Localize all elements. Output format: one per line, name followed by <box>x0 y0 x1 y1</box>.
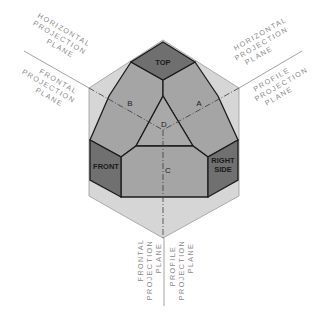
face-label-c: C <box>165 166 171 175</box>
label-bottom-profile: PROFILE PROJECTION PLANE <box>168 240 195 300</box>
svg-text:PLANE: PLANE <box>186 243 195 274</box>
svg-text:PROJECTION: PROJECTION <box>145 240 154 300</box>
projection-diagram: TOP FRONT RIGHT SIDE A B C D HORIZONTAL … <box>0 0 327 319</box>
face-label-d: D <box>161 120 167 129</box>
label-upper-left-horizontal: HORIZONTAL PROJECTION PLANE <box>27 11 93 65</box>
face-label-front: FRONT <box>93 162 119 171</box>
label-upper-right-horizontal: HORIZONTAL PROJECTION PLANE <box>228 15 297 70</box>
face-label-right-1: RIGHT <box>211 156 235 165</box>
svg-text:PLANE: PLANE <box>154 243 163 274</box>
svg-text:PROFILE: PROFILE <box>168 246 177 287</box>
face-label-right-2: SIDE <box>214 165 232 174</box>
face-label-top: TOP <box>155 58 170 67</box>
face-label-b: B <box>127 99 132 108</box>
face-label-a: A <box>196 99 202 108</box>
label-upper-right-profile: PROFILE PROJECTION PLANE <box>248 57 314 111</box>
label-bottom-frontal: FRONTAL PROJECTION PLANE <box>136 239 163 301</box>
svg-text:PROJECTION: PROJECTION <box>177 240 186 300</box>
label-upper-left-frontal: FRONTAL PROJECTION PLANE <box>16 59 82 113</box>
svg-text:FRONTAL: FRONTAL <box>136 239 145 282</box>
